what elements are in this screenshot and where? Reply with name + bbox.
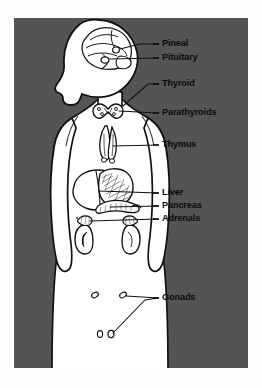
stomach (99, 169, 133, 205)
label-pineal: Pineal (162, 38, 188, 48)
cerebellum (116, 56, 131, 69)
label-adrenals: Adrenals (162, 213, 200, 223)
waist-mark (76, 217, 78, 219)
thymus-gland (100, 126, 117, 163)
pineal-gland (113, 47, 120, 53)
label-liver: Liver (162, 187, 184, 197)
label-pituitary: Pituitary (162, 52, 198, 62)
kidney-left (75, 225, 93, 254)
label-parathyroids: Parathyroids (162, 107, 216, 117)
endocrine-diagram-figure: Pineal Pituitary Thyroid Parathyroids Th… (0, 0, 262, 388)
label-gonads: Gonads (162, 292, 195, 302)
testis-right (108, 330, 114, 337)
testis-left (97, 331, 102, 338)
label-pancreas: Pancreas (162, 200, 202, 210)
kidney-right (122, 225, 140, 254)
diagram-canvas: Pineal Pituitary Thyroid Parathyroids Th… (0, 0, 262, 388)
label-thymus: Thymus (162, 139, 196, 149)
label-thyroid: Thyroid (162, 78, 195, 88)
